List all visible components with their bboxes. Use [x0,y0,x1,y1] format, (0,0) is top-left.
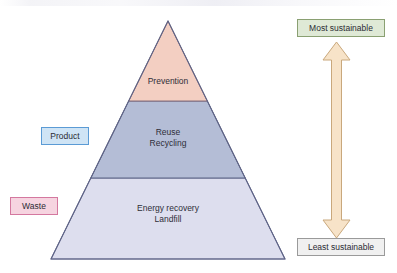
side-label-product[interactable]: Product [41,127,89,145]
tier-line: Energy recovery [98,203,238,214]
side-label-waste[interactable]: Waste [10,197,58,215]
tier-line: Prevention [118,76,218,87]
pyramid-tier-label-prevention: Prevention [118,76,218,87]
scale-label-least-sustainable-text: Least sustainable [308,242,374,252]
side-label-waste-text: Waste [22,201,46,211]
scale-label-most-sustainable[interactable]: Most sustainable [297,19,385,37]
pyramid-tier-label-reuse-recycling: Reuse Recycling [108,127,228,149]
sustainability-arrow[interactable] [323,42,350,238]
pyramid-tier-label-energy-recovery-landfill: Energy recovery Landfill [98,203,238,225]
diagram-canvas: Prevention Reuse Recycling Energy recove… [0,0,397,273]
pyramid-tier-prevention[interactable] [129,21,208,101]
scale-label-least-sustainable[interactable]: Least sustainable [297,238,385,256]
scale-label-most-sustainable-text: Most sustainable [309,23,373,33]
tier-line: Landfill [98,214,238,225]
tier-line: Recycling [108,138,228,149]
side-label-product-text: Product [50,131,79,141]
tier-line: Reuse [108,127,228,138]
